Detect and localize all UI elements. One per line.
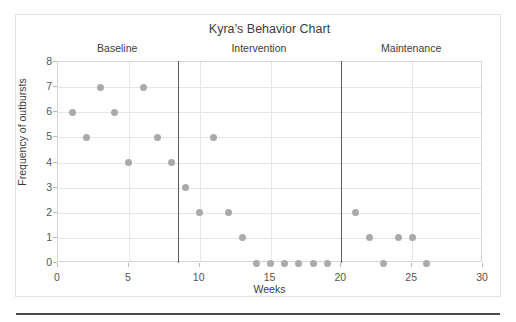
bottom-divider <box>16 313 500 315</box>
y-tick-mark <box>53 111 57 112</box>
data-point <box>210 134 217 141</box>
data-point <box>395 234 402 241</box>
data-point <box>409 234 416 241</box>
y-tick-label: 8 <box>38 56 52 67</box>
gridline-horizontal <box>58 213 481 214</box>
data-point <box>196 209 203 216</box>
x-tick-label: 15 <box>257 271 283 283</box>
behavior-chart-figure: Kyra’s Behavior Chart BaselineInterventi… <box>0 0 516 322</box>
phase-label-maintenance: Maintenance <box>351 42 471 54</box>
data-point <box>225 209 232 216</box>
gridline-horizontal <box>58 238 481 239</box>
x-tick-mark <box>57 263 58 267</box>
data-point <box>352 209 359 216</box>
y-tick-label: 6 <box>38 106 52 117</box>
data-point <box>366 234 373 241</box>
x-axis-title: Weeks <box>57 283 482 295</box>
y-tick-mark <box>53 86 57 87</box>
x-tick-label: 30 <box>469 271 495 283</box>
data-point <box>239 234 246 241</box>
gridline-vertical <box>271 62 272 261</box>
y-tick-mark <box>53 212 57 213</box>
data-point <box>182 184 189 191</box>
x-tick-label: 20 <box>327 271 353 283</box>
gridline-horizontal <box>58 112 481 113</box>
data-point <box>97 84 104 91</box>
gridline-horizontal <box>58 137 481 138</box>
x-tick-label: 5 <box>115 271 141 283</box>
gridline-vertical <box>412 62 413 261</box>
y-tick-label: 3 <box>38 182 52 193</box>
data-point <box>111 109 118 116</box>
y-tick-label: 5 <box>38 131 52 142</box>
x-tick-label: 0 <box>44 271 70 283</box>
y-tick-label: 2 <box>38 207 52 218</box>
x-tick-label: 10 <box>186 271 212 283</box>
y-tick-mark <box>53 187 57 188</box>
data-point <box>140 84 147 91</box>
data-point <box>154 134 161 141</box>
gridline-vertical <box>200 62 201 261</box>
phase-label-intervention: Intervention <box>199 42 319 54</box>
phase-change-line <box>178 61 179 263</box>
phase-label-baseline: Baseline <box>57 42 177 54</box>
x-tick-mark <box>270 263 271 267</box>
chart-title: Kyra’s Behavior Chart <box>57 22 482 36</box>
phase-change-line <box>341 61 342 263</box>
plot-area <box>57 61 482 262</box>
x-tick-mark <box>411 263 412 267</box>
y-tick-mark <box>53 136 57 137</box>
x-tick-mark <box>482 263 483 267</box>
y-axis-ticks: 012345678 <box>36 61 52 262</box>
y-tick-label: 7 <box>38 81 52 92</box>
gridline-horizontal <box>58 163 481 164</box>
y-tick-label: 4 <box>38 157 52 168</box>
x-tick-mark <box>340 263 341 267</box>
y-tick-mark <box>53 162 57 163</box>
y-tick-mark <box>53 237 57 238</box>
data-point <box>168 159 175 166</box>
gridline-horizontal <box>58 188 481 189</box>
x-tick-mark <box>128 263 129 267</box>
y-tick-mark <box>53 61 57 62</box>
data-point <box>83 134 90 141</box>
data-point <box>69 109 76 116</box>
x-tick-label: 25 <box>398 271 424 283</box>
gridline-horizontal <box>58 87 481 88</box>
y-tick-label: 1 <box>38 232 52 243</box>
y-tick-label: 0 <box>38 257 52 268</box>
data-point <box>125 159 132 166</box>
y-axis-title: Frequency of outbursts <box>16 57 28 207</box>
x-tick-mark <box>199 263 200 267</box>
x-axis-ticks: 051015202530 <box>57 263 482 285</box>
